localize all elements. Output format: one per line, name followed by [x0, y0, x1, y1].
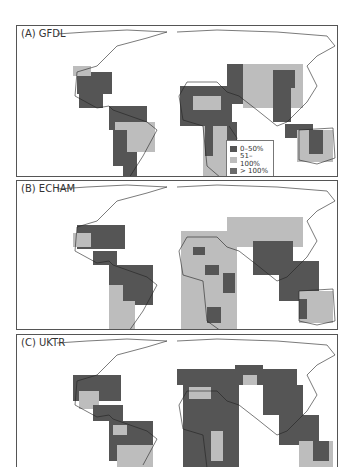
panel-b-echam: (B) ECHAM	[16, 180, 338, 330]
legend-label: > 100%	[240, 167, 268, 175]
panel-b-label: (B) ECHAM	[21, 183, 75, 194]
panel-a-gfdl: (A) GFDL 0–50% 51–100% > 100%	[16, 25, 338, 177]
world-map-c	[17, 335, 338, 467]
legend: 0–50% 51–100% > 100%	[226, 140, 274, 177]
legend-item-51-100: 51–100%	[230, 154, 270, 165]
world-map-a	[17, 26, 338, 177]
world-map-b	[17, 181, 338, 330]
legend-swatch-light	[230, 157, 237, 163]
panel-a-label: (A) GFDL	[21, 28, 66, 39]
panel-c-label: (C) UKTR	[21, 337, 65, 348]
legend-item-over-100: > 100%	[230, 165, 270, 176]
legend-swatch-mid	[230, 168, 237, 174]
legend-label: 51–100%	[240, 152, 270, 168]
legend-swatch-dark	[230, 146, 237, 152]
panel-c-uktr: (C) UKTR	[16, 334, 338, 467]
